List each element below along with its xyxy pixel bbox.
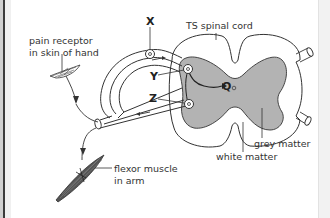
- label-x: X: [146, 15, 155, 28]
- motor-axon: [82, 128, 96, 160]
- label-z: Z: [149, 92, 157, 105]
- label-flexor-2: in arm: [114, 175, 145, 186]
- mixed-nerve-outer-top: [100, 116, 112, 120]
- receptor-axon: [76, 104, 98, 122]
- label-q: Q: [222, 80, 231, 93]
- pain-receptor-icon: [50, 65, 80, 104]
- synapse-z: [185, 100, 194, 109]
- dorsal-root-ganglion-x: [146, 50, 155, 59]
- label-y: Y: [149, 70, 159, 83]
- label-flexor-1: flexor muscle: [114, 163, 178, 174]
- sensory-direction-arrow: [152, 58, 162, 60]
- label-white-matter: white matter: [216, 151, 277, 162]
- label-ts-spinal-cord: TS spinal cord: [185, 20, 253, 31]
- label-grey-matter: grey matter: [254, 138, 311, 149]
- label-pain-receptor-2: in skin of hand: [29, 47, 99, 58]
- synapse-y: [184, 65, 193, 74]
- flexor-muscle-icon: [56, 155, 104, 202]
- mixed-nerve-mid: [118, 112, 124, 118]
- label-pain-receptor-1: pain receptor: [29, 35, 93, 46]
